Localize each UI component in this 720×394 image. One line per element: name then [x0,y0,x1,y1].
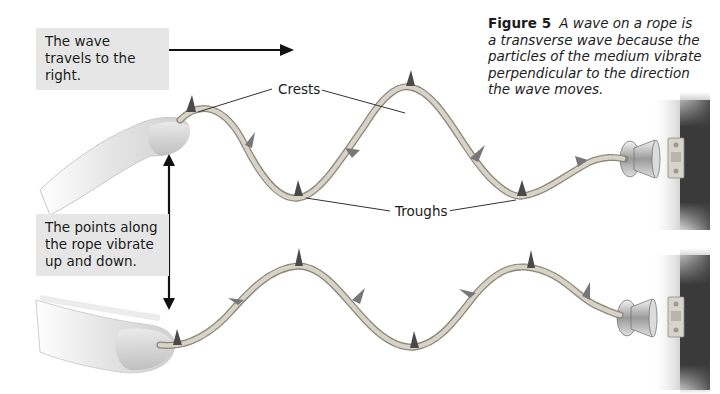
arrow-right-travel [165,44,294,56]
figure-caption: Figure 5 A wave on a rope is a transvers… [488,15,703,98]
vibration-label: The points along the rope vibrate up and… [36,214,169,276]
troughs-label: Troughs [393,203,450,219]
figure-number: Figure 5 [488,15,551,31]
crests-label: Crests [276,81,322,97]
rope-bottom [160,266,620,347]
travel-direction-label: The wave travels to the right. [36,28,169,90]
